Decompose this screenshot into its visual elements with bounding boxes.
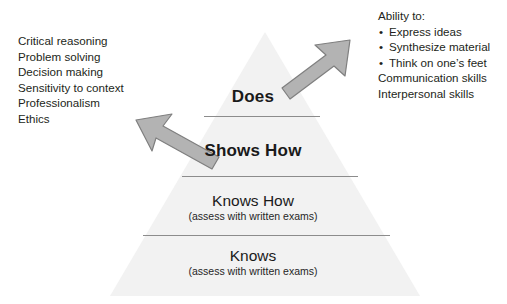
left-annotation-list: Critical reasoning Problem solving Decis… (18, 33, 124, 127)
right-annotation-bullet: • Synthesize material (378, 39, 490, 55)
tier-does-title: Does (163, 88, 343, 106)
tier-does: Does (163, 88, 343, 106)
tier-knows-title: Knows (143, 248, 363, 264)
tier-knows: Knows (assess with written exams) (143, 248, 363, 277)
right-annotation-bullet: • Think on one’s feet (378, 55, 490, 71)
right-annotation-bullet: • Express ideas (378, 24, 490, 40)
miller-pyramid-diagram: Does Shows How Knows How (assess with wr… (0, 0, 507, 304)
right-annotation-bullet-label: Synthesize material (389, 40, 490, 53)
right-annotation-list: Ability to: • Express ideas • Synthesize… (378, 8, 490, 102)
left-annotation-line: Ethics (18, 111, 124, 127)
tier-knows-how-title: Knows How (143, 193, 363, 209)
right-annotation-bullet-label: Think on one’s feet (389, 56, 487, 69)
bullet-icon: • (379, 24, 383, 40)
left-annotation-line: Professionalism (18, 95, 124, 111)
right-annotation-line: Communication skills (378, 70, 490, 86)
divider-does (204, 116, 320, 117)
left-annotation-line: Sensitivity to context (18, 80, 124, 96)
tier-knows-how: Knows How (assess with written exams) (143, 193, 363, 222)
tier-shows-how: Shows How (163, 142, 343, 160)
tier-shows-how-title: Shows How (163, 142, 343, 160)
bullet-icon: • (379, 39, 383, 55)
tier-knows-how-subtitle: (assess with written exams) (143, 211, 363, 222)
divider-knows-how (143, 235, 390, 236)
left-annotation-line: Critical reasoning (18, 33, 124, 49)
right-annotation-line: Interpersonal skills (378, 86, 490, 102)
left-annotation-line: Decision making (18, 64, 124, 80)
tier-knows-subtitle: (assess with written exams) (143, 266, 363, 277)
bullet-icon: • (379, 55, 383, 71)
right-annotation-heading: Ability to: (378, 8, 490, 24)
divider-shows (182, 176, 358, 177)
right-annotation-bullet-label: Express ideas (389, 25, 462, 38)
left-annotation-line: Problem solving (18, 49, 124, 65)
